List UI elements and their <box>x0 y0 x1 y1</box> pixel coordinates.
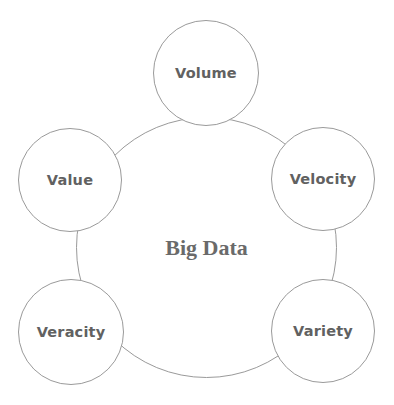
satellite-circle-velocity: Velocity <box>271 127 375 231</box>
satellite-label-velocity: Velocity <box>290 171 357 187</box>
big-data-diagram: Big Data Volume Velocity Variety Veracit… <box>0 0 394 405</box>
hub-label: Big Data <box>165 235 248 261</box>
satellite-label-veracity: Veracity <box>37 324 106 340</box>
satellite-label-volume: Volume <box>175 65 237 81</box>
satellite-circle-value: Value <box>18 128 122 232</box>
satellite-circle-veracity: Veracity <box>18 279 124 385</box>
satellite-circle-variety: Variety <box>271 279 375 383</box>
satellite-label-variety: Variety <box>293 323 353 339</box>
satellite-label-value: Value <box>47 172 93 188</box>
satellite-circle-volume: Volume <box>153 20 259 126</box>
